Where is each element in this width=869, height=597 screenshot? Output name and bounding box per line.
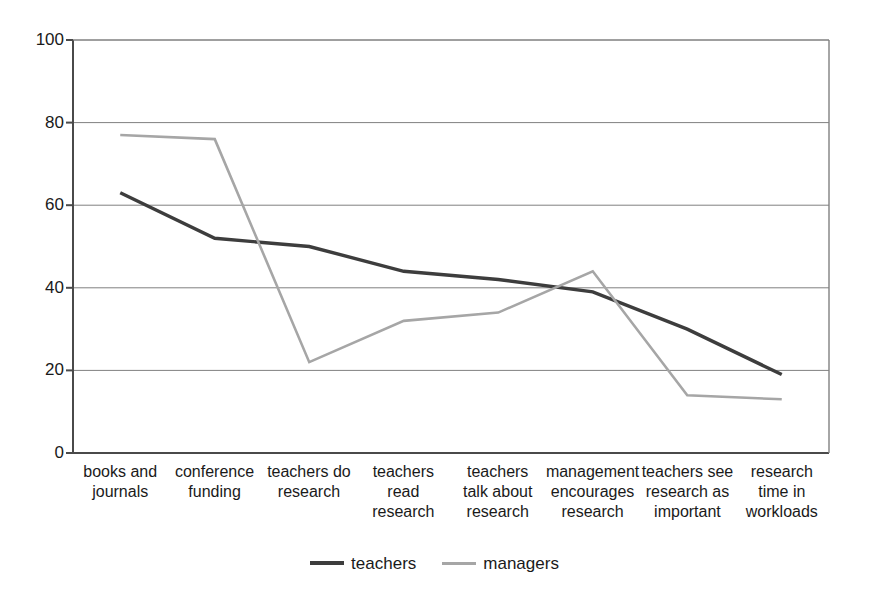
x-tick-label-line: books and bbox=[74, 462, 166, 482]
x-tick-label-line: research bbox=[452, 502, 544, 522]
x-tick-label-line: conference bbox=[168, 462, 260, 482]
x-tick-label-line: teachers see bbox=[641, 462, 733, 482]
series-lines bbox=[120, 135, 782, 399]
x-tick-label-line: management bbox=[546, 462, 639, 482]
x-tick-label-line: funding bbox=[168, 482, 260, 502]
x-tick-label-4: teachersreadresearch bbox=[356, 462, 450, 542]
x-tick-label-line: research bbox=[357, 502, 449, 522]
x-tick-label-line: teachers bbox=[357, 462, 449, 482]
x-tick-label-3: teachers doresearch bbox=[262, 462, 356, 542]
x-tick-label-2: conferencefunding bbox=[167, 462, 261, 542]
x-tick-label-line: workloads bbox=[736, 502, 828, 522]
y-axis-tick-labels: 100806040200 bbox=[0, 0, 64, 470]
y-tick-label-0: 0 bbox=[4, 444, 64, 461]
x-tick-label-5: teacherstalk aboutresearch bbox=[451, 462, 545, 542]
axis-lines bbox=[73, 40, 829, 453]
x-tick-label-line: important bbox=[641, 502, 733, 522]
series-line-teachers bbox=[120, 193, 782, 375]
y-axis-ticks bbox=[66, 40, 73, 453]
x-tick-label-1: books andjournals bbox=[73, 462, 167, 542]
y-tick-label-20: 20 bbox=[4, 361, 64, 378]
line-chart-figure: 100806040200 books andjournalsconference… bbox=[0, 0, 869, 597]
x-tick-label-line: teachers bbox=[452, 462, 544, 482]
x-tick-label-line: research bbox=[546, 502, 639, 522]
y-tick-label-40: 40 bbox=[4, 279, 64, 296]
legend-item-label: managers bbox=[483, 555, 559, 572]
x-tick-label-line: research bbox=[736, 462, 828, 482]
y-tick-label-60: 60 bbox=[4, 196, 64, 213]
legend-line-swatch-icon bbox=[442, 562, 476, 565]
x-tick-label-line: time in bbox=[736, 482, 828, 502]
legend-item-label: teachers bbox=[351, 555, 416, 572]
gridlines bbox=[73, 40, 829, 370]
x-tick-label-line: research bbox=[263, 482, 355, 502]
legend-line-swatch-icon bbox=[310, 561, 344, 565]
x-tick-label-line: journals bbox=[74, 482, 166, 502]
x-tick-label-line: encourages bbox=[546, 482, 639, 502]
x-tick-label-line: read bbox=[357, 482, 449, 502]
y-tick-label-100: 100 bbox=[4, 31, 64, 48]
x-tick-label-line: teachers do bbox=[263, 462, 355, 482]
legend-item-managers[interactable]: managers bbox=[442, 555, 559, 572]
series-line-managers bbox=[120, 135, 782, 399]
x-tick-label-7: teachers seeresearch asimportant bbox=[640, 462, 734, 542]
x-tick-label-6: managementencouragesresearch bbox=[545, 462, 640, 542]
x-tick-label-line: research as bbox=[641, 482, 733, 502]
x-axis-tick-labels: books andjournalsconferencefundingteache… bbox=[73, 462, 829, 542]
x-tick-label-8: researchtime inworkloads bbox=[735, 462, 829, 542]
x-tick-label-line: talk about bbox=[452, 482, 544, 502]
y-tick-label-80: 80 bbox=[4, 114, 64, 131]
legend-item-teachers[interactable]: teachers bbox=[310, 555, 416, 572]
chart-legend: teachersmanagers bbox=[0, 548, 869, 578]
